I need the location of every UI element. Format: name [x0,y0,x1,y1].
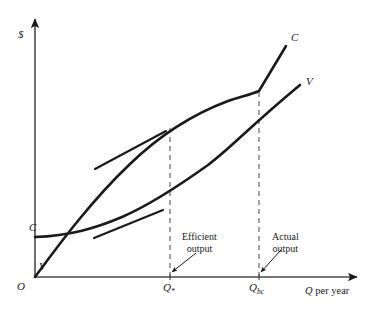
cost-curve [35,46,286,277]
x-tick-q-star: Q* [163,281,175,297]
value-curve-label: V [306,75,313,88]
efficient-output-line1: Efficient [182,231,217,243]
efficient-output-line2: output [182,243,217,255]
x-axis-label: Q per year [305,285,349,297]
x-tick-q-star-sub: * [171,287,175,296]
value-curve [35,85,300,237]
economics-cost-value-diagram [0,0,379,310]
efficient-output-leader [172,253,196,272]
x-axis-label-symbol: Q [305,285,313,296]
cost-curve-label: C [291,31,298,44]
x-tick-q-star-main: Q [163,281,171,293]
efficient-output-annotation: Efficient output [182,231,217,254]
y-axis-label: $ [18,28,24,41]
actual-output-line1: Actual [272,231,299,243]
actual-output-annotation: Actual output [272,231,299,254]
x-tick-q-bc: Qbc [249,281,264,297]
x-tick-q-bc-main: Q [249,281,257,293]
origin-label: O [17,280,25,293]
actual-output-line2: output [272,243,299,255]
value-origin-label: V [39,260,46,273]
x-tick-q-bc-sub: bc [257,287,264,296]
x-axis-label-text: per year [313,285,350,296]
cost-intercept-label: C [29,221,36,234]
